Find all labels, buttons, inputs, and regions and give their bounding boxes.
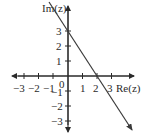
re-axis-label: Re(z) bbox=[116, 82, 141, 95]
x-tick-label: 2 bbox=[93, 82, 99, 94]
y-tick-label: −3 bbox=[51, 115, 63, 127]
y-tick-label: 2 bbox=[56, 40, 62, 52]
y-tick-label: −1 bbox=[51, 86, 63, 98]
complex-plane-chart: −3 −2 −1 0 1 2 3 3 2 1 −1 −2 −3 Im(z) Re… bbox=[0, 0, 143, 139]
y-tick-label: 3 bbox=[56, 25, 62, 37]
im-axis-label: Im(z) bbox=[42, 2, 67, 15]
x-tick-labels: −3 −2 −1 0 1 2 3 bbox=[13, 78, 113, 94]
x-tick-label: −3 bbox=[13, 82, 25, 94]
x-tick-label: 1 bbox=[80, 82, 86, 94]
x-tick-label: −2 bbox=[28, 82, 40, 94]
y-tick-label: −2 bbox=[51, 100, 63, 112]
y-tick-label: 1 bbox=[56, 55, 62, 67]
